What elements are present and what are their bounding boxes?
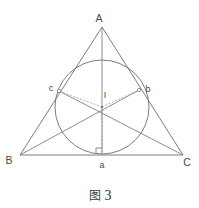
incenter-label: I [104,90,107,100]
incircle-radii-dashed [59,90,139,154]
triangle-outline [20,27,183,155]
tangent-label-c: c [49,83,54,93]
radius-I-to-c [59,91,102,107]
figure-container: A B C a b c I 图 3 [0,0,199,208]
figure-caption-glyph: 图 [88,190,102,202]
figure-caption-number: 3 [105,189,112,203]
tangent-point-markers [57,88,140,92]
tangent-label-b: b [145,84,150,94]
incenter-point [101,106,103,108]
side-AC [102,27,183,155]
tangent-point-b-marker [137,88,140,91]
vertex-label-C: C [183,156,191,168]
cevian-lines [20,27,183,155]
geometry-diagram: A B C a b c I [0,0,199,208]
vertex-label-A: A [95,12,102,24]
tangent-label-a: a [99,160,104,170]
vertex-label-B: B [5,154,12,166]
right-angle-marker-a [96,148,102,154]
figure-caption: 图 3 [0,183,199,208]
tangent-point-c-marker [57,89,60,92]
cevian-B-to-b [20,90,139,155]
cevian-C-to-c [59,91,183,155]
